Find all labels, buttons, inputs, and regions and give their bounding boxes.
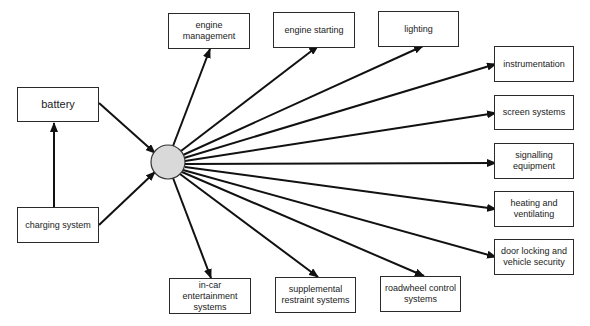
supplemental-restraint-label: supplementalrestraint systems xyxy=(281,284,349,306)
instrumentation-label: instrumentation xyxy=(503,59,565,70)
engine-management-label: enginemanagement xyxy=(183,20,236,42)
in-car-entertainment-label: in-car entertainmentsystems xyxy=(173,280,247,313)
engine-management-box: enginemanagement xyxy=(168,13,250,49)
battery-box: battery xyxy=(17,87,99,122)
supplemental-restraint-box: supplementalrestraint systems xyxy=(275,277,356,313)
screen-systems-label: screen systems xyxy=(503,107,566,118)
door-locking-box: door locking andvehicle security xyxy=(494,239,574,275)
arrow-hub-to-heating-and-ventilating xyxy=(185,167,496,209)
arrow-charging-system-to-hub xyxy=(99,172,155,225)
central-hub-node xyxy=(151,145,185,179)
lighting-label: lighting xyxy=(404,24,433,35)
screen-systems-box: screen systems xyxy=(494,95,574,130)
door-locking-label: door locking andvehicle security xyxy=(501,246,567,268)
signalling-equipment-box: signallingequipment xyxy=(494,143,574,179)
arrow-hub-to-roadwheel control xyxy=(182,172,424,276)
heating-and-ventilating-box: heating andventilating xyxy=(494,191,574,227)
arrow-hub-to-instrumentation xyxy=(184,64,496,158)
arrow-hub-to-door-locking-and-vehicle-security xyxy=(183,170,496,257)
engine-starting-box: engine starting xyxy=(273,12,355,48)
signalling-equipment-label: signallingequipment xyxy=(513,150,555,172)
instrumentation-box: instrumentation xyxy=(494,46,574,82)
arrow-hub-to-screen-systems xyxy=(185,113,496,161)
arrow-hub-to-engine-management xyxy=(173,49,210,146)
lighting-box: lighting xyxy=(378,11,459,47)
battery-label: battery xyxy=(41,99,75,110)
vehicle-electrical-system-diagram: battery charging system enginemanagement… xyxy=(0,0,590,326)
roadwheel-control-box: roadwheel controlsystems xyxy=(380,276,461,312)
arrow-battery-to-hub xyxy=(99,103,155,153)
arrow-hub-to-signalling-equipment xyxy=(185,163,496,164)
charging-system-box: charging system xyxy=(17,207,99,243)
engine-starting-label: engine starting xyxy=(284,25,343,36)
roadwheel-control-label: roadwheel controlsystems xyxy=(385,283,456,305)
in-car-entertainment-box: in-car entertainmentsystems xyxy=(169,278,251,314)
arrow-hub-to-supplemental-restraint-systems xyxy=(180,174,318,277)
heating-and-ventilating-label: heating andventilating xyxy=(510,198,557,220)
arrow-hub-to-lighting xyxy=(183,46,423,155)
charging-system-label: charging system xyxy=(25,220,91,231)
arrow-hub-to-engine-starting xyxy=(181,46,318,151)
